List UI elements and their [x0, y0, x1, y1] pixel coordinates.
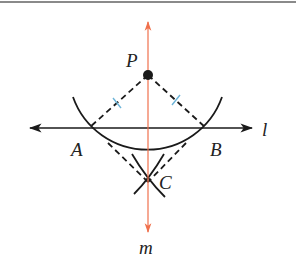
label-m: m: [139, 237, 153, 258]
label-p: P: [125, 50, 138, 71]
dashed-segment-pa: [89, 75, 148, 128]
dashed-segment-pb: [148, 75, 206, 128]
label-b: B: [210, 139, 222, 160]
label-c: C: [159, 172, 172, 193]
point-p: [143, 70, 153, 80]
label-a: A: [69, 139, 83, 160]
tick-mark-pa: [113, 98, 121, 108]
perpendicular-construction-diagram: P A B C l m: [0, 0, 296, 268]
label-l: l: [262, 119, 267, 140]
